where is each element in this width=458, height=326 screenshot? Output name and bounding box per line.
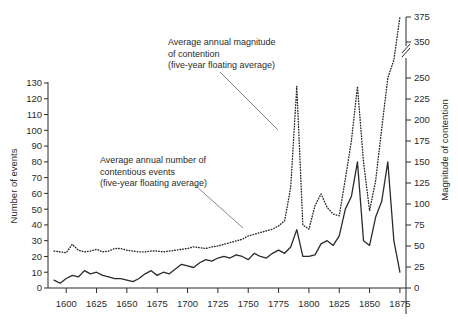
y-tick-label: 120 (26, 93, 42, 104)
y2-tick-label: 50 (414, 240, 425, 251)
x-tick-label: 1700 (177, 298, 198, 309)
left-axis-title: Number of events (8, 148, 19, 223)
y-tick-label: 70 (31, 172, 42, 183)
magnitude-annotation-line: of contention (168, 49, 220, 59)
magnitude-annotation-line: Average annual magnitude (168, 37, 275, 47)
y2-tick-label: 100 (414, 198, 430, 209)
y2-tick-label: 125 (414, 177, 430, 188)
chart-figure: 0102030405060708090100110120130025507510… (0, 0, 458, 326)
annotations-layer: Average annual magnitudeof contention(fi… (100, 37, 278, 228)
y2-tick-label: 250 (414, 72, 430, 83)
x-tick-label: 1775 (268, 298, 289, 309)
x-tick-label: 1850 (359, 298, 380, 309)
events-annotation-line: (five-year floating average) (100, 178, 207, 188)
y-tick-label: 130 (26, 77, 42, 88)
events-annotation: Average annual number ofcontentious even… (100, 155, 243, 228)
x-tick-label: 1750 (238, 298, 259, 309)
x-tick-label: 1800 (298, 298, 319, 309)
series-layer (54, 17, 400, 283)
magnitude-annotation: Average annual magnitudeof contention(fi… (168, 37, 278, 130)
x-tick-label: 1600 (56, 298, 77, 309)
y2-tick-label: 75 (414, 219, 425, 230)
contention-line-chart: 0102030405060708090100110120130025507510… (0, 0, 458, 326)
axes-layer: 0102030405060708090100110120130025507510… (26, 11, 430, 314)
y-tick-label: 90 (31, 140, 42, 151)
x-tick-label: 1675 (147, 298, 168, 309)
y-tick-label: 80 (31, 156, 42, 167)
y-tick-label: 100 (26, 125, 42, 136)
y-tick-label: 110 (27, 109, 42, 120)
y-tick-label: 0 (37, 282, 42, 293)
series-magnitude-line (54, 17, 400, 253)
x-tick-label: 1725 (207, 298, 228, 309)
y2-tick-label: 375 (414, 11, 430, 22)
right-axis-title: Magnitude of contention (439, 99, 450, 200)
magnitude-annotation-line: (five-year floating average) (168, 60, 275, 70)
y-tick-label: 10 (31, 267, 42, 278)
magnitude-annotation-leader-line (220, 72, 278, 130)
y-tick-label: 30 (31, 235, 42, 246)
events-annotation-line: contentious events (100, 167, 176, 177)
y-tick-label: 20 (31, 251, 42, 262)
y2-tick-label: 200 (414, 114, 430, 125)
y2-tick-label: 150 (414, 156, 430, 167)
x-tick-label: 1875 (389, 298, 410, 309)
events-annotation-line: Average annual number of (100, 155, 206, 165)
x-tick-label: 1625 (86, 298, 107, 309)
y-tick-label: 50 (31, 204, 42, 215)
y-tick-label: 60 (31, 188, 42, 199)
y2-tick-label: 25 (414, 261, 425, 272)
y2-tick-label: 175 (414, 135, 430, 146)
x-tick-label: 1825 (329, 298, 350, 309)
y2-tick-label: 225 (414, 93, 430, 104)
y2-tick-label: 350 (414, 36, 430, 47)
y-tick-label: 40 (31, 219, 42, 230)
x-tick-label: 1650 (116, 298, 137, 309)
y2-tick-label: 0 (414, 282, 419, 293)
events-annotation-leader-line (196, 186, 243, 228)
